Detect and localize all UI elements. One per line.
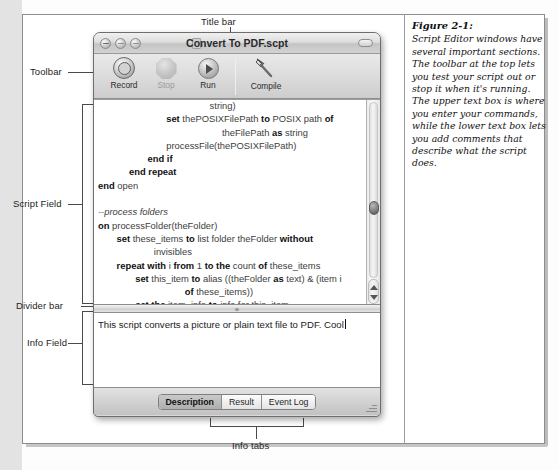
script-source-text[interactable]: string)set thePOSIXFilePath to POSIX pat… [98,99,365,304]
script-line: set these_items to list folder theFolder… [98,232,365,245]
script-field-scrollbar[interactable] [366,100,380,304]
script-line: end repeat [98,165,365,178]
stop-icon [156,58,177,79]
text-caret [345,319,346,329]
divider-grip-icon[interactable] [235,308,239,311]
document-proxy-icon[interactable] [192,38,201,49]
script-field[interactable]: string)set thePOSIXFilePath to POSIX pat… [94,99,380,304]
compile-button-label: Compile [251,81,282,91]
stop-button[interactable]: Stop [145,57,187,90]
script-line: processFile(thePOSIXFilePath) [98,139,365,152]
script-line: end if [98,152,365,165]
annotation-toolbar: Toolbar [30,66,62,77]
run-icon [198,58,219,79]
bracket-info-field [82,311,93,385]
window-title-bar[interactable]: Convert To PDF.scpt [94,33,380,54]
annotation-info-tabs: Info tabs [232,440,269,451]
page-left-margin [0,0,22,470]
scrollbar-track[interactable] [369,102,378,278]
script-line: theFilePath as string [98,126,365,139]
close-button[interactable] [100,38,111,49]
script-line: string) [98,99,365,112]
figure-caption: Figure 2-1: Script Editor windows have s… [412,20,548,170]
resize-grip-icon[interactable] [365,401,377,413]
info-field[interactable]: This script converts a picture or plain … [94,313,380,387]
annotation-script-field: Script Field [13,198,62,209]
script-line: end open [98,179,365,192]
caption-divider-rule [404,14,405,444]
scrollbar-thumb[interactable] [369,201,379,215]
tab-result[interactable]: Result [222,395,262,409]
scroll-up-arrow-icon[interactable] [370,285,378,290]
script-line [98,192,365,205]
zoom-button[interactable] [130,38,141,49]
tab-description[interactable]: Description [159,395,222,409]
divider-bar[interactable] [94,304,380,313]
tab-event-log[interactable]: Event Log [262,395,316,409]
scroll-down-arrow-icon[interactable] [370,295,378,300]
leader-toolbar [68,72,94,73]
toolbar-toggle-button[interactable] [358,39,373,47]
script-line: set this_item to alias ((theFolder as te… [98,272,365,285]
record-icon [113,57,135,79]
toolbar-separator [235,59,236,95]
annotation-divider-bar: Divider bar [16,300,63,311]
stop-button-label: Stop [157,80,174,90]
scanned-page: Figure 2-1: Script Editor windows have s… [0,0,559,470]
record-button[interactable]: Record [103,57,145,90]
info-field-value: This script converts a picture or plain … [98,319,344,330]
leader-script-field [68,204,82,205]
minimize-button[interactable] [115,38,126,49]
compile-button[interactable]: Compile [242,57,290,91]
leader-info-field [68,343,82,344]
scrollbar-arrow-cap [368,279,379,304]
info-tab-strip: Description Result Event Log [94,387,380,415]
toolbar: Record Stop Run Compile [94,54,380,99]
info-field-text[interactable]: This script converts a picture or plain … [98,318,365,331]
page-shadow-bottom [26,444,547,447]
traffic-light-group [100,38,141,49]
run-button[interactable]: Run [187,57,229,90]
annotation-title-bar: Title bar [201,16,236,27]
bracket-script-field [82,104,93,304]
record-button-label: Record [111,80,138,90]
script-line: on processFolder(theFolder) [98,219,365,232]
figure-caption-text: Script Editor windows have several impor… [412,33,546,168]
script-line: --process folders [98,205,365,218]
bracket-info-tabs [210,418,304,427]
script-line: set thePOSIXFilePath to POSIX path of [98,112,365,125]
script-line: of these_items)) [98,285,365,298]
hammer-icon [254,57,278,80]
script-line: invisibles [98,245,365,258]
run-button-label: Run [200,80,215,90]
info-tabs: Description Result Event Log [158,394,317,410]
script-editor-window[interactable]: Convert To PDF.scpt Record Stop Run [93,32,381,417]
script-line: repeat with i from 1 to the count of the… [98,259,365,272]
annotation-info-field: Info Field [27,337,67,348]
leader-info-tabs [256,426,257,439]
figure-number: Figure 2-1: [412,20,548,32]
